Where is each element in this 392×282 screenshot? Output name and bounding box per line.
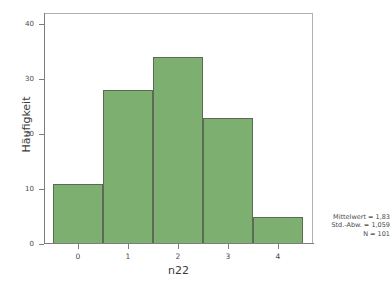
statistic-count: N = 101 <box>310 230 390 238</box>
statistics-annotation: Mittelwert = 1,83 Std.-Abw. = 1,059 N = … <box>310 213 390 238</box>
x-tick-label: 2 <box>166 252 190 261</box>
y-axis-line <box>44 13 45 244</box>
x-tick-label: 4 <box>266 252 290 261</box>
statistic-stddev: Std.-Abw. = 1,059 <box>310 221 390 229</box>
y-tick-mark <box>39 244 44 245</box>
x-tick-label: 0 <box>66 252 90 261</box>
y-axis-title: Häufigkeit <box>20 55 33 195</box>
x-tick-mark <box>278 244 279 249</box>
x-axis-line <box>44 243 314 244</box>
x-tick-mark <box>178 244 179 249</box>
y-tick-label: 40 <box>4 20 34 28</box>
x-tick-mark <box>228 244 229 249</box>
y-tick-mark <box>39 79 44 80</box>
statistic-mean: Mittelwert = 1,83 <box>310 213 390 221</box>
y-tick-mark <box>39 134 44 135</box>
histogram-chart: 010203040 01234 Häufigkeit n22 Mittelwer… <box>0 0 392 282</box>
histogram-bar <box>253 217 303 245</box>
histogram-bar <box>103 90 153 244</box>
x-tick-label: 1 <box>116 252 140 261</box>
bars-layer <box>44 13 313 244</box>
histogram-bar <box>153 57 203 244</box>
y-tick-label: 0 <box>4 240 34 248</box>
x-axis-title: n22 <box>44 264 313 277</box>
x-tick-mark <box>128 244 129 249</box>
x-tick-label: 3 <box>216 252 240 261</box>
histogram-bar <box>203 118 253 245</box>
y-tick-mark <box>39 24 44 25</box>
y-tick-mark <box>39 189 44 190</box>
histogram-bar <box>53 184 103 245</box>
x-tick-mark <box>78 244 79 249</box>
